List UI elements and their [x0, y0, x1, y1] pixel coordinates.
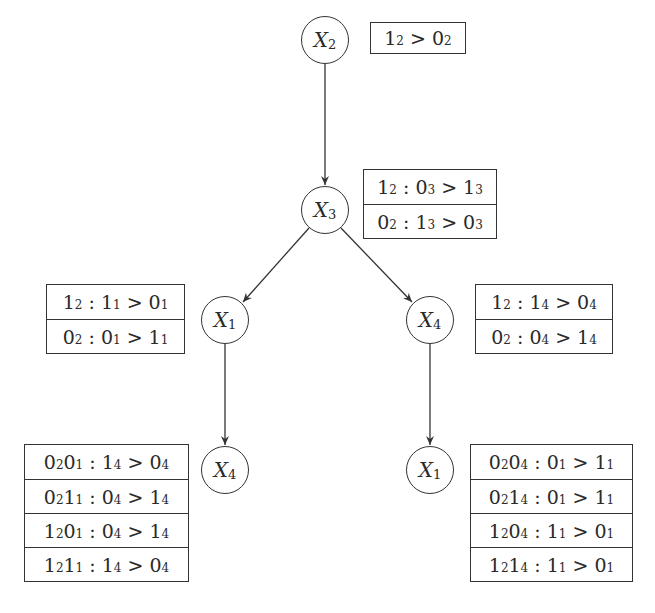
text: 1	[547, 554, 559, 576]
node-sub: 2	[328, 37, 336, 52]
cpt-row: 02 : 13 > 03	[364, 204, 496, 238]
text: 0	[529, 326, 541, 348]
cpt-row: 12 : 11 > 01	[47, 285, 184, 319]
cpt-row: 12 > 02	[371, 23, 465, 53]
subscript: 4	[521, 561, 529, 575]
text: 1	[63, 291, 75, 313]
node-x4: X4	[406, 296, 454, 344]
subscript: 4	[541, 333, 549, 347]
text: >	[121, 326, 149, 348]
subscript: 2	[501, 458, 509, 472]
subscript: 3	[475, 183, 483, 197]
subscript: 4	[521, 527, 529, 541]
sub: 2	[396, 34, 404, 48]
subscript: 1	[559, 493, 567, 507]
subscript: 1	[607, 458, 615, 472]
text: :	[397, 211, 415, 233]
subscript: 4	[162, 561, 170, 575]
text: >	[549, 291, 577, 313]
text: 0	[491, 326, 503, 348]
node-x1-leaf: X1	[406, 446, 454, 494]
text: :	[511, 291, 529, 313]
subscript: 1	[559, 561, 567, 575]
text: 1	[594, 451, 606, 473]
text: 1	[491, 291, 503, 313]
subscript: 4	[589, 298, 597, 312]
subscript: 4	[589, 333, 597, 347]
text: >	[435, 211, 463, 233]
subscript: 2	[75, 298, 83, 312]
subscript: 2	[389, 183, 397, 197]
node-x1: X1	[201, 296, 249, 344]
cpt-row: 1204 : 11 > 01	[471, 513, 632, 547]
subscript: 2	[501, 527, 509, 541]
subscript: 2	[503, 333, 511, 347]
text: 0	[509, 520, 521, 542]
node-sub: 1	[228, 317, 236, 332]
node-var: X	[214, 458, 228, 482]
node-var: X	[419, 458, 433, 482]
text: 0	[594, 554, 606, 576]
subscript: 2	[501, 561, 509, 575]
cpt-row: 12 : 14 > 04	[476, 285, 612, 319]
subscript: 2	[503, 298, 511, 312]
text: 0	[101, 326, 113, 348]
text: :	[83, 486, 101, 508]
text: 0	[594, 520, 606, 542]
cpt-row: 0204 : 01 > 11	[471, 445, 632, 479]
text: :	[83, 451, 101, 473]
node-sub: 4	[228, 467, 236, 482]
subscript: 2	[501, 493, 509, 507]
text: 1	[377, 176, 389, 198]
text: :	[83, 554, 101, 576]
subscript: 4	[162, 458, 170, 472]
node-x4-leaf: X4	[201, 446, 249, 494]
text: 1	[44, 554, 56, 576]
text: >	[435, 176, 463, 198]
text: 1	[489, 520, 501, 542]
text: 0	[64, 520, 76, 542]
subscript: 1	[559, 458, 567, 472]
text: >	[121, 520, 149, 542]
node-var: X	[314, 198, 328, 222]
text: 0	[577, 291, 589, 313]
cpt-row: 1214 : 11 > 01	[471, 547, 632, 581]
text: >	[121, 554, 149, 576]
text: 0	[102, 520, 114, 542]
text: 1	[102, 451, 114, 473]
node-var: X	[214, 308, 228, 332]
text: 0	[44, 486, 56, 508]
value: 0	[432, 27, 444, 49]
subscript: 1	[113, 298, 121, 312]
cpt-row: 02 : 01 > 11	[47, 319, 184, 353]
subscript: 1	[113, 333, 121, 347]
node-var: X	[314, 28, 328, 52]
text: :	[528, 520, 546, 542]
subscript: 4	[114, 493, 122, 507]
text: :	[397, 176, 415, 198]
subscript: 4	[162, 493, 170, 507]
text: 1	[44, 520, 56, 542]
text: 1	[547, 520, 559, 542]
text: :	[82, 291, 100, 313]
text: 0	[102, 486, 114, 508]
text: 0	[463, 211, 475, 233]
text: 1	[529, 291, 541, 313]
subscript: 4	[521, 493, 529, 507]
text: >	[121, 291, 149, 313]
text: 1	[101, 291, 113, 313]
text: 0	[489, 451, 501, 473]
text: 1	[149, 520, 161, 542]
cpt-x2: 12 > 02	[370, 22, 466, 54]
text: >	[121, 451, 149, 473]
node-x2: X2	[301, 16, 349, 64]
text: 1	[102, 554, 114, 576]
text: >	[566, 554, 594, 576]
cpt-row: 1201 : 04 > 14	[25, 513, 188, 547]
edge-x3-x4	[341, 228, 412, 302]
text: >	[566, 451, 594, 473]
text: 1	[64, 486, 76, 508]
text: 1	[489, 554, 501, 576]
text: >	[566, 486, 594, 508]
text: 1	[415, 211, 427, 233]
